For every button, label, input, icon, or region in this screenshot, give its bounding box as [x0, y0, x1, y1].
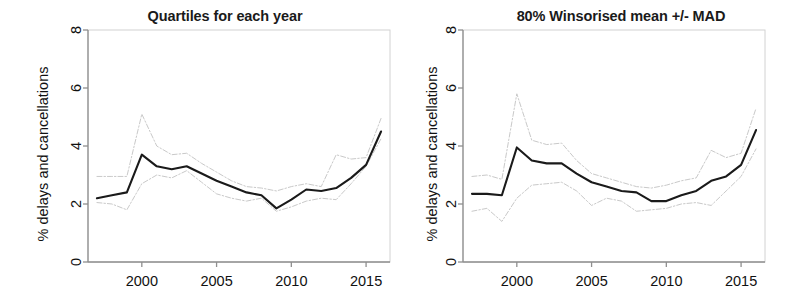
series-line-median [97, 132, 381, 209]
x-tick-label: 2000 [501, 273, 533, 289]
figure-two-panel-line-charts: Quartiles for each year % delays and can… [0, 0, 807, 301]
x-tick-label: 2005 [575, 273, 607, 289]
x-tick-label: 2000 [126, 273, 158, 289]
series-line-mean-mad [472, 149, 756, 222]
y-tick-label: 6 [443, 84, 459, 92]
y-tick-label: 0 [443, 258, 459, 266]
y-tick-label: 8 [443, 26, 459, 34]
x-tick-label: 2015 [350, 273, 382, 289]
y-tick-label: 4 [68, 142, 84, 150]
x-tick-label: 2010 [275, 273, 307, 289]
panel-quartiles: Quartiles for each year % delays and can… [0, 0, 404, 301]
plot-area-quartiles: 024682000200520102015 [0, 0, 404, 301]
x-tick-label: 2015 [725, 273, 757, 289]
series-line-80-winsorised-mean [472, 130, 756, 201]
panel-winsorised: 80% Winsorised mean +/- MAD % delays and… [403, 0, 807, 301]
x-tick-label: 2005 [200, 273, 232, 289]
x-tick-label: 2010 [650, 273, 682, 289]
y-tick-label: 6 [68, 84, 84, 92]
y-tick-label: 2 [68, 200, 84, 208]
plot-box [88, 30, 390, 262]
plot-area-winsorised: 024682000200520102015 [403, 0, 807, 301]
plot-box [463, 30, 765, 262]
y-tick-label: 8 [68, 26, 84, 34]
series-line-mean-mad [472, 94, 756, 188]
y-tick-label: 2 [443, 200, 459, 208]
series-line-upper-quartile [97, 114, 381, 191]
series-line-lower-quartile [97, 139, 381, 212]
y-tick-label: 0 [68, 258, 84, 266]
y-tick-label: 4 [443, 142, 459, 150]
